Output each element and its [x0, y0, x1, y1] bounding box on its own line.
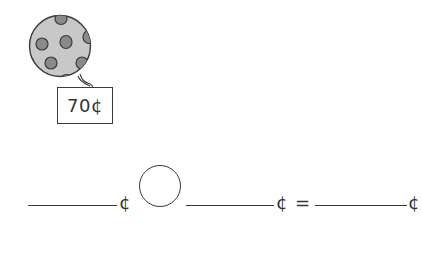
price-tag: 70¢: [57, 87, 113, 124]
cent-sign-3: ¢: [408, 194, 419, 212]
cent-sign-1: ¢: [119, 194, 130, 212]
answer-blank-2[interactable]: [186, 205, 274, 206]
operator-circle[interactable]: [139, 165, 181, 207]
equals-sign: =: [295, 194, 310, 212]
cent-sign-2: ¢: [276, 194, 287, 212]
polka-dot-ball-icon: [24, 14, 95, 84]
answer-blank-result[interactable]: [315, 205, 407, 206]
answer-blank-1[interactable]: [28, 205, 117, 206]
price-label: 70¢: [67, 95, 103, 116]
